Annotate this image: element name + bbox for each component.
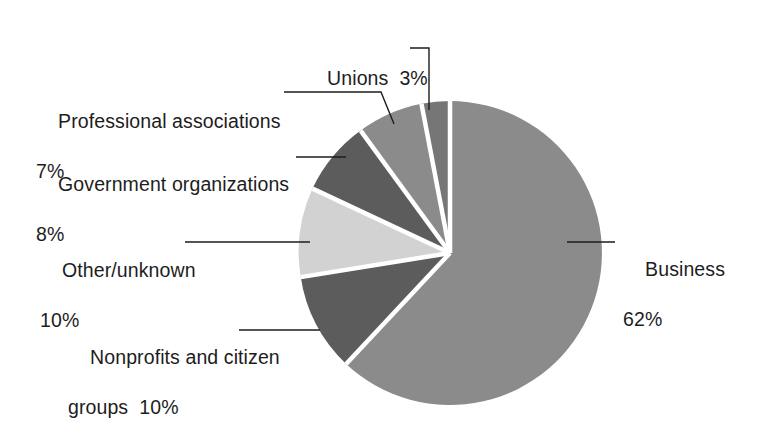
pie-chart-figure: Unions 3% Professional associations 7% G…: [0, 0, 772, 446]
pie-label-nonprofits-value: groups 10%: [68, 395, 280, 420]
pie-label-business: Business 62%: [623, 232, 725, 382]
pie-label-nonprofits-text: Nonprofits and citizen: [90, 346, 280, 368]
pie-label-other-text: Other/unknown: [62, 259, 196, 281]
pie-label-unions: Unions 3%: [305, 41, 428, 116]
pie-label-business-value: 62%: [623, 307, 725, 332]
pie-label-business-text: Business: [645, 258, 725, 280]
pie-label-unions-text: Unions 3%: [327, 67, 428, 89]
pie-label-nonprofits: Nonprofits and citizen groups 10%: [68, 320, 280, 446]
pie-label-government-text: Government organizations: [58, 173, 289, 195]
pie-label-professional-text: Professional associations: [58, 110, 281, 132]
